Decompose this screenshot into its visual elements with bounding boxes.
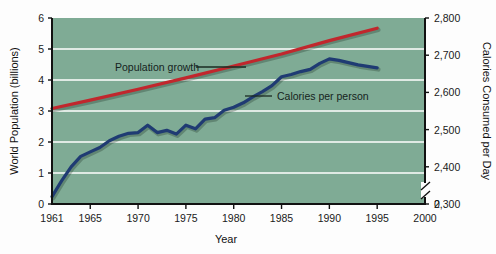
left-tick-label: 5 bbox=[38, 43, 44, 55]
left-tick-label: 0 bbox=[38, 198, 44, 210]
left-tick-label: 1 bbox=[38, 167, 44, 179]
x-axis-title: Year bbox=[215, 233, 238, 245]
bottom-tick-label: 1995 bbox=[365, 212, 389, 224]
bottom-tick-label: 1990 bbox=[318, 212, 342, 224]
left-tick-label: 4 bbox=[38, 74, 44, 86]
bottom-tick-label: 1970 bbox=[126, 212, 150, 224]
right-tick-label: 2,400 bbox=[434, 161, 460, 173]
y-axis-title-right: Calories Consumed per Day bbox=[481, 42, 493, 181]
left-tick-label: 2 bbox=[38, 136, 44, 148]
left-tick-label: 6 bbox=[38, 12, 44, 24]
calories-per-person-label: Calories per person bbox=[277, 90, 369, 102]
bottom-tick-label: 1980 bbox=[222, 212, 246, 224]
line-chart: 012345602,3002,4002,5002,6002,7002,80019… bbox=[0, 0, 496, 254]
bottom-tick-label: 1985 bbox=[270, 212, 294, 224]
left-tick-label: 3 bbox=[38, 105, 44, 117]
y-axis-title-left: World Population (billions) bbox=[8, 47, 20, 175]
bottom-tick-label: 1975 bbox=[174, 212, 198, 224]
bottom-tick-label: 2000 bbox=[413, 212, 437, 224]
population-growth-label: Population growth bbox=[115, 61, 199, 73]
right-tick-label: 2,500 bbox=[434, 124, 460, 136]
right-tick-label: 2,300 bbox=[434, 198, 460, 210]
right-tick-label: 2,700 bbox=[434, 49, 460, 61]
chart-figure: 012345602,3002,4002,5002,6002,7002,80019… bbox=[0, 0, 496, 254]
bottom-tick-label: 1961 bbox=[40, 212, 64, 224]
right-tick-label: 2,600 bbox=[434, 86, 460, 98]
right-tick-label: 2,800 bbox=[434, 12, 460, 24]
bottom-tick-label: 1965 bbox=[79, 212, 103, 224]
